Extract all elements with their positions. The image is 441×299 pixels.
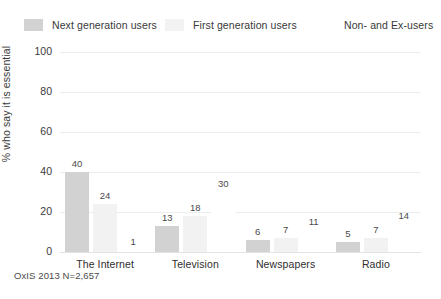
- x-axis-label-radio: Radio: [316, 258, 436, 270]
- bar[interactable]: 13: [155, 52, 179, 252]
- bar[interactable]: 1: [121, 52, 145, 252]
- bar[interactable]: 6: [246, 52, 270, 252]
- bar[interactable]: 11: [302, 52, 326, 252]
- y-axis-tick-60: 60: [0, 125, 52, 137]
- bar-rect[interactable]: [392, 224, 416, 252]
- bar-group: 40241: [65, 52, 145, 252]
- bar-value-label: 24: [85, 190, 125, 201]
- legend-swatch-non-and-ex-users: [316, 19, 335, 31]
- y-axis-tick-100: 100: [0, 45, 52, 57]
- legend-item-first-generation-users: First generation users: [165, 14, 297, 36]
- bar-rect[interactable]: [183, 216, 207, 252]
- legend-label-next-generation-users: Next generation users: [52, 19, 157, 31]
- bar-rect[interactable]: [211, 192, 235, 252]
- bar[interactable]: 24: [93, 52, 117, 252]
- legend-swatch-next-generation-users: [24, 19, 43, 31]
- bar-value-label: 30: [203, 178, 243, 189]
- chart-legend: Next generation users First generation u…: [0, 14, 441, 36]
- bar-rect[interactable]: [65, 172, 89, 252]
- bar-rect[interactable]: [336, 242, 360, 252]
- bar[interactable]: 5: [336, 52, 360, 252]
- bar-value-label: 7: [356, 224, 396, 235]
- bar[interactable]: 14: [392, 52, 416, 252]
- bar-rect[interactable]: [121, 250, 145, 252]
- y-axis-tick-40: 40: [0, 165, 52, 177]
- bar-value-label: 1: [113, 236, 153, 247]
- bar-group: 5714: [336, 52, 416, 252]
- bar[interactable]: 7: [364, 52, 388, 252]
- bar-value-label: 14: [384, 210, 424, 221]
- bar-value-label: 11: [294, 216, 334, 227]
- y-axis-tick-0: 0: [0, 245, 52, 257]
- bar[interactable]: 18: [183, 52, 207, 252]
- bar-group: 131830: [155, 52, 235, 252]
- legend-item-non-and-ex-users: Non- and Ex-users: [316, 14, 433, 36]
- bar-value-label: 40: [57, 158, 97, 169]
- plot-area: 4024113183067115714 The InternetTelevisi…: [60, 52, 421, 252]
- axis-baseline: [60, 252, 421, 253]
- bar-rect[interactable]: [364, 238, 388, 252]
- legend-swatch-first-generation-users: [165, 19, 184, 31]
- bar-chart: % who say it is essential 020406080100 4…: [0, 40, 441, 270]
- legend-label-non-and-ex-users: Non- and Ex-users: [344, 19, 433, 31]
- bar-rect[interactable]: [155, 226, 179, 252]
- bar-group: 6711: [246, 52, 326, 252]
- legend-item-next-generation-users: Next generation users: [24, 14, 157, 36]
- bar-rect[interactable]: [246, 240, 270, 252]
- bar-rect[interactable]: [302, 230, 326, 252]
- bar-value-label: 18: [175, 202, 215, 213]
- bar[interactable]: 30: [211, 52, 235, 252]
- y-axis-tick-20: 20: [0, 205, 52, 217]
- bar-value-label: 13: [147, 212, 187, 223]
- bar[interactable]: 40: [65, 52, 89, 252]
- legend-label-first-generation-users: First generation users: [193, 19, 297, 31]
- bar-rect[interactable]: [274, 238, 298, 252]
- y-axis-tick-80: 80: [0, 85, 52, 97]
- source-note: OxIS 2013 N=2,657: [14, 270, 99, 281]
